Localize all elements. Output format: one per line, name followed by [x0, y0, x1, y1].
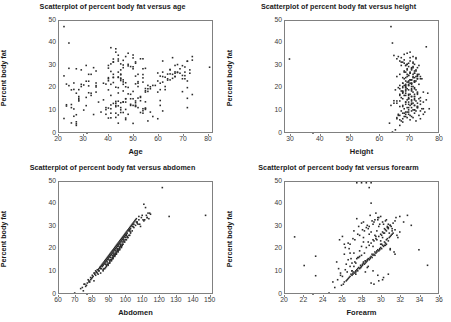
- x-tick-label: 20: [46, 136, 70, 143]
- panel-age-yticks: 01020304050: [30, 20, 56, 133]
- x-tick-mark: [158, 134, 159, 136]
- x-tick-mark: [439, 134, 440, 136]
- x-tick-mark: [183, 134, 184, 136]
- x-tick-label: 40: [308, 136, 332, 143]
- y-tick-label: 10: [258, 268, 282, 275]
- panel-height: Scatterplot of percent body fat versus h…: [226, 0, 451, 161]
- x-tick-label: 80: [427, 136, 451, 143]
- panel-abdomen-plot-area: [58, 181, 213, 294]
- panel-forearm-title: Scatterplot of percent body fat versus f…: [226, 163, 451, 172]
- x-tick-mark: [400, 295, 401, 297]
- panel-abdomen-ylabel: Percent body fat: [0, 89, 8, 189]
- x-tick-mark: [320, 134, 321, 136]
- panel-abdomen-points: [59, 182, 212, 293]
- panel-forearm-xticks: 202224262830323436: [284, 295, 439, 307]
- x-tick-label: 60: [367, 136, 391, 143]
- y-tick-label: 40: [258, 39, 282, 46]
- panel-abdomen-title: Scatterplot of percent body fat versus a…: [0, 163, 225, 172]
- y-tick-label: 10: [32, 268, 56, 275]
- x-tick-mark: [303, 295, 304, 297]
- y-tick-label: 30: [32, 62, 56, 69]
- x-tick-label: 30: [278, 136, 302, 143]
- panel-age: Scatterplot of percent body fat versus a…: [0, 0, 225, 161]
- x-tick-mark: [290, 134, 291, 136]
- x-tick-mark: [142, 295, 143, 297]
- panel-height-yticks: 01020304050: [256, 20, 282, 133]
- x-tick-label: 70: [171, 136, 195, 143]
- x-tick-mark: [176, 295, 177, 297]
- panel-height-points: [285, 21, 438, 132]
- x-tick-label: 70: [397, 136, 421, 143]
- panel-age-xlabel: Age: [58, 147, 213, 156]
- panel-height-xticks: 304050607080: [284, 134, 439, 146]
- x-tick-mark: [108, 134, 109, 136]
- y-tick-label: 20: [258, 245, 282, 252]
- x-tick-mark: [92, 295, 93, 297]
- panel-abdomen-xticks: 60708090100110120130140150: [58, 295, 213, 307]
- y-tick-label: 50: [258, 17, 282, 24]
- panel-height-plot-area: [284, 20, 439, 133]
- y-tick-label: 20: [32, 84, 56, 91]
- x-tick-mark: [210, 295, 211, 297]
- x-tick-mark: [379, 134, 380, 136]
- x-tick-mark: [58, 134, 59, 136]
- x-tick-mark: [58, 295, 59, 297]
- panel-abdomen-xlabel: Abdomen: [58, 308, 213, 317]
- x-tick-mark: [159, 295, 160, 297]
- x-tick-mark: [284, 295, 285, 297]
- panel-age-xticks: 20304050607080: [58, 134, 213, 146]
- y-tick-label: 40: [32, 39, 56, 46]
- y-tick-label: 30: [258, 223, 282, 230]
- x-tick-mark: [125, 295, 126, 297]
- panel-abdomen-ylabel-text: Percent body fat: [0, 189, 8, 289]
- x-tick-label: 50: [338, 136, 362, 143]
- panel-height-ylabel: Percent body fat: [225, 0, 234, 28]
- y-tick-label: 40: [258, 200, 282, 207]
- y-tick-label: 10: [258, 107, 282, 114]
- y-tick-label: 20: [258, 84, 282, 91]
- panel-forearm-yticks: 01020304050: [256, 181, 282, 294]
- panel-height-xlabel: Height: [284, 147, 439, 156]
- x-tick-mark: [208, 134, 209, 136]
- panel-abdomen: Scatterplot of percent body fat versus a…: [0, 161, 225, 322]
- panel-age-points: [59, 21, 212, 132]
- x-tick-mark: [75, 295, 76, 297]
- y-tick-label: 40: [32, 200, 56, 207]
- panel-forearm-ylabel: Percent body fat: [225, 89, 234, 189]
- panel-forearm-xlabel: Forearm: [284, 308, 439, 317]
- x-tick-label: 36: [427, 297, 451, 304]
- y-tick-label: 50: [32, 17, 56, 24]
- panel-height-title: Scatterplot of percent body fat versus h…: [226, 2, 451, 11]
- x-tick-label: 150: [198, 297, 222, 304]
- panel-forearm-ylabel-text: Percent body fat: [225, 189, 234, 289]
- y-tick-label: 50: [258, 178, 282, 185]
- panel-forearm-points: [285, 182, 438, 293]
- x-tick-mark: [109, 295, 110, 297]
- panel-age-ylabel: Percent body fat: [0, 0, 8, 28]
- x-tick-label: 60: [146, 136, 170, 143]
- x-tick-label: 40: [96, 136, 120, 143]
- x-tick-mark: [362, 295, 363, 297]
- panel-age-title: Scatterplot of percent body fat versus a…: [0, 2, 225, 11]
- y-tick-label: 30: [258, 62, 282, 69]
- x-tick-label: 50: [121, 136, 145, 143]
- panel-forearm-plot-area: [284, 181, 439, 294]
- x-tick-mark: [342, 295, 343, 297]
- y-tick-label: 20: [32, 245, 56, 252]
- panel-abdomen-yticks: 01020304050: [30, 181, 56, 294]
- x-tick-label: 80: [196, 136, 220, 143]
- y-tick-label: 30: [32, 223, 56, 230]
- y-tick-label: 10: [32, 107, 56, 114]
- panel-forearm: Scatterplot of percent body fat versus f…: [226, 161, 451, 322]
- x-tick-mark: [193, 295, 194, 297]
- x-tick-mark: [350, 134, 351, 136]
- x-tick-mark: [381, 295, 382, 297]
- x-tick-mark: [409, 134, 410, 136]
- x-tick-label: 30: [71, 136, 95, 143]
- y-tick-label: 50: [32, 178, 56, 185]
- x-tick-mark: [439, 295, 440, 297]
- panel-age-plot-area: [58, 20, 213, 133]
- x-tick-mark: [323, 295, 324, 297]
- x-tick-mark: [83, 134, 84, 136]
- x-tick-mark: [420, 295, 421, 297]
